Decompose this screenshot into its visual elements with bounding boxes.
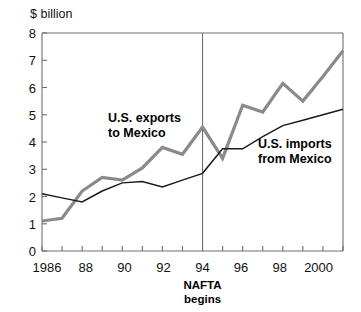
x-tick-label-92: 92 xyxy=(156,260,170,275)
x-tick-label-88: 88 xyxy=(79,260,93,275)
x-tick-label-96: 96 xyxy=(234,260,248,275)
y-tick-label-1: 1 xyxy=(29,217,36,232)
x-tick-label-2000: 2000 xyxy=(304,260,333,275)
exports-label-line2: to Mexico xyxy=(108,126,166,140)
y-axis-tick-labels: 8 7 6 5 4 3 2 1 0 xyxy=(29,26,36,259)
nafta-label-line2: begins xyxy=(184,293,221,305)
annotation-imports-label: U.S. imports from Mexico xyxy=(258,137,332,166)
x-tick-label-94: 94 xyxy=(195,260,209,275)
line-chart: $ billion 8 7 6 5 4 3 2 xyxy=(0,0,361,312)
y-tick-label-2: 2 xyxy=(29,190,36,205)
y-tick-label-5: 5 xyxy=(29,108,36,123)
nafta-label-line1: NAFTA xyxy=(183,279,221,291)
exports-label-line1: U.S. exports xyxy=(108,111,181,125)
y-tick-label-6: 6 xyxy=(29,81,36,96)
x-tick-label-1986: 1986 xyxy=(33,260,62,275)
y-tick-label-0: 0 xyxy=(29,244,36,259)
y-tick-label-3: 3 xyxy=(29,162,36,177)
chart-container: $ billion 8 7 6 5 4 3 2 xyxy=(0,0,361,312)
y-tick-label-8: 8 xyxy=(29,26,36,41)
x-tick-label-90: 90 xyxy=(117,260,131,275)
y-tick-label-4: 4 xyxy=(29,135,36,150)
imports-label-line2: from Mexico xyxy=(258,152,332,166)
y-axis-title: $ billion xyxy=(30,7,72,21)
imports-label-line1: U.S. imports xyxy=(258,137,332,151)
y-tick-label-7: 7 xyxy=(29,53,36,68)
x-tick-label-98: 98 xyxy=(273,260,287,275)
